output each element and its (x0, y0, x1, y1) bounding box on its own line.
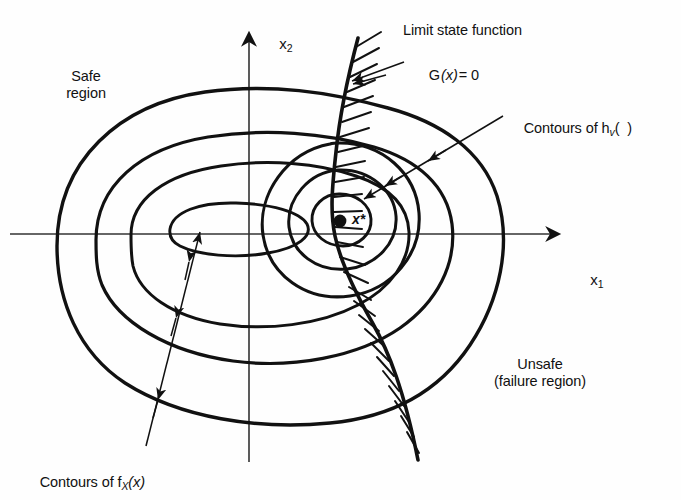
contours-fx-label: Contours of fX(x) (24, 457, 145, 500)
limit-state-function-label: Limit state function (403, 22, 522, 39)
fx-leader-arrow (146, 232, 200, 446)
contours-hv-suffix: ( ) (615, 120, 632, 136)
contours-hv-prefix: Contours of h (524, 120, 610, 136)
figure-canvas: Saferegion Unsafe(failure region) Limit … (0, 0, 681, 500)
limit-state-equation-rhs: = 0 (459, 67, 479, 83)
design-point-label: x* (352, 211, 365, 227)
x-axis-label-subscript: 1 (598, 278, 604, 290)
fx-contours (57, 88, 503, 424)
limit-state-equation-arg: (x) (441, 67, 458, 83)
x-axis-label: x1 (574, 254, 603, 308)
unsafe-region-label: Unsafe(failure region) (452, 356, 628, 389)
contours-fx-suffix: (x) (128, 474, 145, 490)
design-point-marker (334, 215, 347, 228)
contours-hv-label: Contours of hv( ) (508, 103, 632, 155)
y-axis-label-base: x (279, 35, 286, 52)
limit-state-curve (332, 38, 418, 460)
x-axis-label-base: x (590, 271, 597, 288)
fx-contour-inner (170, 203, 308, 256)
limit-state-hatching (334, 32, 419, 453)
fx-contour-outer (57, 88, 503, 424)
safe-region-label: Saferegion (38, 68, 134, 101)
y-axis-label-subscript: 2 (287, 42, 293, 54)
limit-state-equation-label: G (x) = 0 (413, 50, 479, 100)
limit-state-equation-fn: G (429, 67, 440, 83)
y-axis-label: x2 (263, 18, 292, 72)
contours-fx-prefix: Contours of f (40, 474, 122, 490)
